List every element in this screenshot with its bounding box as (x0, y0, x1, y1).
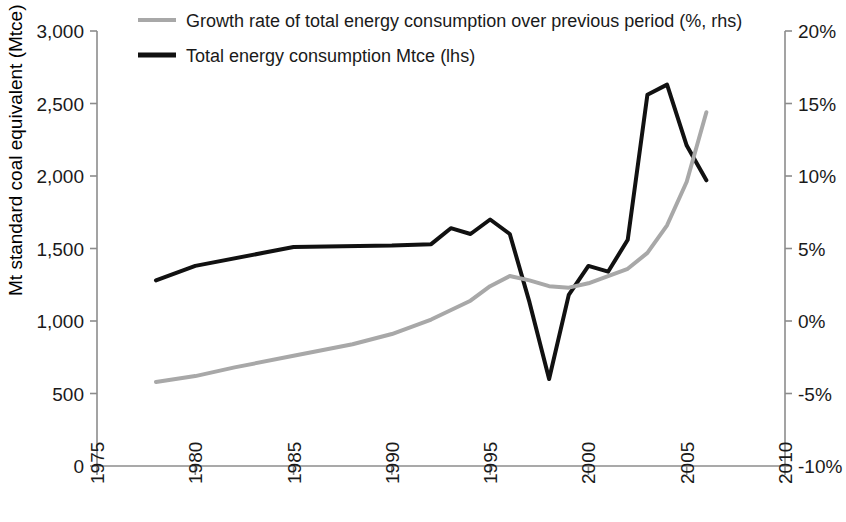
y-axis-right-tick-label: 10% (798, 166, 836, 187)
x-axis-tick-label: 1985 (284, 442, 305, 484)
y-axis-left-title: Mt standard coal equivalent (Mtce) (5, 5, 26, 296)
y-axis-left-tick-label: 1,500 (36, 239, 84, 260)
x-axis-tick-label: 1975 (87, 442, 108, 484)
x-axis-tick-label: 2010 (775, 442, 796, 484)
y-axis-left-tick-label: 3,000 (36, 21, 84, 42)
chart-canvas: 05001,0001,5002,0002,5003,000-10%-5%0%5%… (0, 0, 846, 522)
x-axis-tick-label: 2000 (578, 442, 599, 484)
y-axis-title: Mt standard coal equivalent (Mtce) (5, 5, 26, 296)
chart-tick-labels: 05001,0001,5002,0002,5003,000-10%-5%0%5%… (36, 21, 842, 484)
y-axis-left-tick-label: 2,000 (36, 166, 84, 187)
x-axis-tick-label: 2005 (677, 442, 698, 484)
chart-figure: 05001,0001,5002,0002,5003,000-10%-5%0%5%… (0, 0, 846, 522)
chart-axes (90, 31, 792, 475)
y-axis-right-tick-label: 20% (798, 21, 836, 42)
y-axis-right-tick-label: 5% (798, 239, 826, 260)
x-axis-tick-label: 1980 (185, 442, 206, 484)
chart-legend: Growth rate of total energy consumption … (138, 11, 742, 66)
y-axis-right-tick-label: 0% (798, 311, 826, 332)
chart-series-lines (156, 85, 706, 382)
y-axis-left-tick-label: 2,500 (36, 94, 84, 115)
x-axis-tick-label: 1990 (382, 442, 403, 484)
series-line-1 (156, 85, 706, 379)
y-axis-right-tick-label: -5% (798, 384, 832, 405)
y-axis-left-tick-label: 0 (73, 456, 84, 477)
y-axis-right-tick-label: -10% (798, 456, 842, 477)
y-axis-left-tick-label: 500 (52, 384, 84, 405)
legend-label-2: Total energy consumption Mtce (lhs) (186, 46, 475, 66)
legend-label-1: Growth rate of total energy consumption … (186, 11, 742, 31)
y-axis-right-tick-label: 15% (798, 94, 836, 115)
x-axis-tick-label: 1995 (480, 442, 501, 484)
y-axis-left-tick-label: 1,000 (36, 311, 84, 332)
